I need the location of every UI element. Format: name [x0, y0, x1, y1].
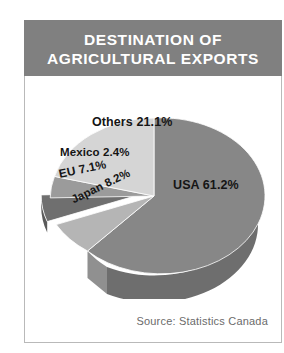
figure-card: DESTINATION OF AGRICULTURAL EXPORTS [12, 10, 270, 333]
pie-label-usa: USA 61.2% [173, 178, 239, 192]
chart-title-line-2: AGRICULTURAL EXPORTS [47, 49, 259, 68]
chart-plot-area: Others 21.1% Mexico 2.4% EU 7.1% Japan 8… [24, 76, 282, 343]
chart-title-banner: DESTINATION OF AGRICULTURAL EXPORTS [24, 20, 282, 76]
pie-chart: Others 21.1% Mexico 2.4% EU 7.1% Japan 8… [30, 84, 278, 299]
source-note: Source: Statistics Canada [136, 315, 268, 327]
pie-label-others: Others 21.1% [92, 115, 172, 129]
chart-title-line-1: DESTINATION OF [84, 30, 222, 49]
pie-label-mexico: Mexico 2.4% [60, 146, 130, 158]
